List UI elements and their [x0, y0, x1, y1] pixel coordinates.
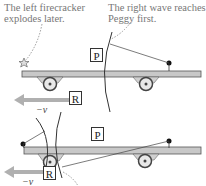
flatcar-top — [22, 71, 201, 77]
velocity-arrow-shaft — [22, 98, 74, 102]
peggy-box-bottom: P — [91, 127, 104, 141]
leader-line-right — [111, 22, 131, 39]
leader-line-bottom — [63, 172, 78, 186]
ray-line — [23, 131, 45, 144]
annotation-left-line1: The left firecracker — [4, 2, 85, 13]
peggy-box-top: P — [90, 48, 103, 62]
wavefront-arc-right — [56, 112, 62, 178]
ryan-box-bottom: R — [43, 166, 56, 180]
leader-line-left — [26, 24, 42, 60]
diagram-canvas — [0, 0, 206, 186]
top-panel — [14, 22, 201, 112]
ray-line — [110, 44, 169, 63]
arrow-left-icon — [14, 94, 24, 106]
annotation-right-line1: The right wave reaches — [108, 2, 206, 13]
arrow-left-icon — [4, 166, 14, 178]
flatcar-bottom — [24, 147, 201, 154]
annotation-left-line2: explodes later. — [4, 13, 65, 24]
firecracker-star-icon — [19, 58, 29, 67]
velocity-label-top: −v — [36, 104, 47, 115]
velocity-label-bottom: −v — [22, 176, 33, 186]
ryan-box-top: R — [69, 91, 82, 105]
velocity-arrow-shaft — [12, 170, 44, 174]
annotation-right-line2: Peggy first. — [108, 13, 156, 24]
bottom-panel — [4, 112, 201, 186]
